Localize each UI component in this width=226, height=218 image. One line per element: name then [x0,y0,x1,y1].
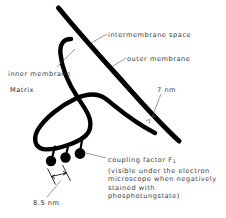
caption-title-text: coupling factor F [108,156,173,164]
coupling-factor-caption: coupling factor F1 (visible under the el… [108,156,217,201]
label-seven-nm: 7 nm [157,86,176,95]
coupling-factor-particle-3 [75,148,86,159]
caption-line-1: (visible under the electron [108,167,217,176]
caption-line-4: phosphotungstate) [108,192,217,201]
caption-line-2: microscope when negatively [108,175,217,184]
coupling-factor-particle-2 [60,152,70,162]
caption-title-subscript: 1 [173,159,176,164]
coupling-factor-stalk-3 [81,140,83,149]
label-outer-membrane: outer membrane [127,55,190,64]
leader-line-eight-five-nm [47,181,61,198]
leader-line-coupling-factor [86,153,106,158]
label-inner-membrane: inner membrane [8,70,71,79]
label-eight-five-nm: 8.5 nm [33,199,59,208]
label-matrix: Matrix [10,86,34,95]
label-intermembrane-space: intermembrane space [108,31,191,40]
leader-line-intermembrane-space [91,34,107,43]
leader-line-outer-membrane [113,58,126,66]
leader-line-seven-nm [152,94,161,117]
mitochondrion-membrane-diagram: intermembrane space outer membrane inner… [0,0,226,218]
coupling-factor-particle-1 [46,156,56,166]
outer-membrane-stroke [59,8,180,141]
leader-arrow-seven-nm-lower [146,120,150,125]
caption-title: coupling factor F1 [108,156,217,166]
caption-line-3: stained with [108,184,217,193]
